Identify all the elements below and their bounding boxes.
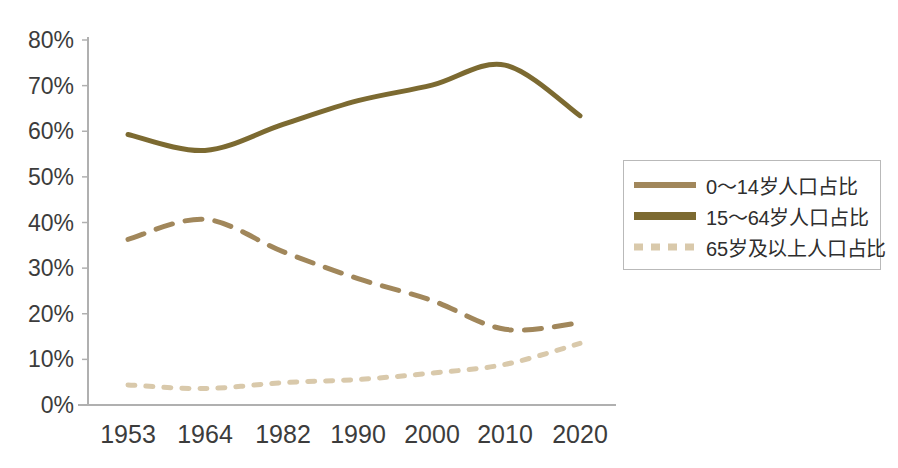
legend-label-0-14: 0～14岁人口占比 — [706, 171, 858, 200]
axis-lines — [78, 37, 616, 405]
y-tick-label: 20% — [28, 301, 74, 327]
x-tick-label: 2000 — [404, 420, 460, 448]
x-tick-label: 1990 — [330, 420, 386, 448]
y-tick-label: 70% — [28, 73, 74, 99]
data-series-lines — [128, 64, 580, 388]
x-tick-label: 2010 — [477, 420, 533, 448]
legend-entry-65-plus[interactable]: 65岁及以上人口占比 — [634, 232, 874, 262]
x-axis-tick-labels: 1953196419821990200020102020 — [100, 420, 608, 448]
legend-label-65-plus: 65岁及以上人口占比 — [706, 233, 886, 262]
y-tick-label: 30% — [28, 255, 74, 281]
legend-label-15-64: 15～64岁人口占比 — [706, 202, 869, 231]
y-axis-tick-labels: 0%10%20%30%40%50%60%70%80% — [28, 27, 74, 418]
series-line-0-14 — [128, 219, 580, 330]
legend-swatch-15-64 — [634, 209, 696, 223]
legend-entry-list: 0～14岁人口占比 15～64岁人口占比 65岁及以上人口占比 — [634, 170, 874, 262]
legend-entry-15-64[interactable]: 15～64岁人口占比 — [634, 201, 874, 231]
x-tick-label: 1953 — [100, 420, 156, 448]
y-tick-label: 80% — [28, 27, 74, 53]
legend-swatch-65-plus — [634, 240, 696, 254]
y-tick-label: 50% — [28, 164, 74, 190]
chart-legend: 0～14岁人口占比 15～64岁人口占比 65岁及以上人口占比 — [623, 160, 881, 270]
y-tick-label: 0% — [41, 392, 74, 418]
legend-swatch-0-14 — [634, 178, 696, 192]
series-line-65-plus — [128, 343, 580, 388]
x-tick-label: 2020 — [552, 420, 608, 448]
y-tick-label: 10% — [28, 346, 74, 372]
series-line-15-64 — [128, 64, 580, 150]
population-share-line-chart: 0%10%20%30%40%50%60%70%80% 1953196419821… — [0, 0, 898, 468]
y-tick-label: 40% — [28, 210, 74, 236]
x-tick-label: 1964 — [177, 420, 233, 448]
legend-entry-0-14[interactable]: 0～14岁人口占比 — [634, 170, 874, 200]
x-tick-label: 1982 — [255, 420, 311, 448]
y-tick-label: 60% — [28, 118, 74, 144]
